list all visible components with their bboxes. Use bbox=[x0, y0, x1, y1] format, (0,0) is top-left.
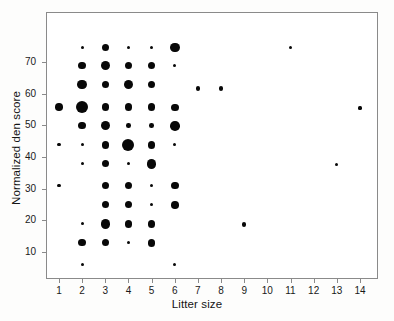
data-point bbox=[81, 263, 84, 266]
data-point bbox=[171, 182, 179, 190]
x-tick-mark bbox=[82, 279, 83, 283]
data-point bbox=[78, 239, 86, 247]
y-tick-mark bbox=[42, 220, 46, 221]
data-point bbox=[170, 121, 180, 131]
y-tick-mark bbox=[42, 157, 46, 158]
data-point bbox=[148, 103, 156, 111]
data-point bbox=[148, 141, 156, 149]
x-tick-mark bbox=[198, 279, 199, 283]
x-tick-mark bbox=[291, 279, 292, 283]
x-tick-mark bbox=[267, 279, 268, 283]
data-point bbox=[170, 43, 180, 53]
x-tick-label: 4 bbox=[118, 285, 138, 296]
data-point bbox=[81, 162, 84, 165]
y-tick-mark bbox=[42, 125, 46, 126]
x-tick-mark bbox=[360, 279, 361, 283]
data-point bbox=[125, 103, 133, 111]
x-tick-label: 5 bbox=[142, 285, 162, 296]
data-point bbox=[81, 222, 84, 225]
data-point bbox=[149, 123, 154, 128]
x-tick-label: 7 bbox=[188, 285, 208, 296]
x-tick-label: 13 bbox=[327, 285, 347, 296]
data-point bbox=[196, 86, 201, 91]
x-tick-label: 10 bbox=[257, 285, 277, 296]
bubble-chart-figure: 1234567891011121314 10203040506070 Litte… bbox=[0, 0, 394, 321]
x-tick-label: 8 bbox=[211, 285, 231, 296]
x-tick-mark bbox=[244, 279, 245, 283]
y-tick-mark bbox=[42, 94, 46, 95]
x-tick-label: 14 bbox=[350, 285, 370, 296]
data-point bbox=[81, 46, 84, 49]
y-tick-mark bbox=[42, 62, 46, 63]
y-tick-mark bbox=[42, 252, 46, 253]
x-tick-label: 11 bbox=[281, 285, 301, 296]
x-tick-label: 3 bbox=[95, 285, 115, 296]
x-tick-mark bbox=[128, 279, 129, 283]
x-tick-mark bbox=[175, 279, 176, 283]
data-point bbox=[102, 141, 110, 149]
x-tick-label: 1 bbox=[49, 285, 69, 296]
data-point bbox=[358, 106, 361, 109]
x-tick-label: 9 bbox=[234, 285, 254, 296]
data-point bbox=[76, 101, 88, 113]
x-tick-mark bbox=[221, 279, 222, 283]
y-axis-title: Normalized den score bbox=[10, 68, 22, 228]
data-point bbox=[55, 103, 63, 111]
data-point bbox=[102, 103, 110, 111]
x-tick-mark bbox=[105, 279, 106, 283]
x-tick-mark bbox=[152, 279, 153, 283]
data-point bbox=[171, 201, 179, 209]
y-tick-label: 70 bbox=[14, 56, 36, 67]
y-axis-title-container: Normalized den score bbox=[10, 68, 26, 228]
data-point bbox=[171, 104, 179, 112]
data-point bbox=[148, 239, 156, 247]
x-tick-mark bbox=[337, 279, 338, 283]
data-point bbox=[126, 123, 131, 128]
data-point bbox=[57, 184, 60, 187]
y-tick-label: 10 bbox=[14, 246, 36, 257]
data-point bbox=[125, 220, 133, 228]
x-tick-mark bbox=[314, 279, 315, 283]
y-tick-mark bbox=[42, 189, 46, 190]
x-axis-title: Litter size bbox=[0, 298, 394, 310]
plot-area-frame bbox=[46, 12, 378, 279]
x-tick-label: 12 bbox=[304, 285, 324, 296]
x-tick-label: 2 bbox=[72, 285, 92, 296]
data-point bbox=[219, 86, 224, 91]
data-point bbox=[101, 219, 111, 229]
x-tick-label: 6 bbox=[165, 285, 185, 296]
x-tick-mark bbox=[59, 279, 60, 283]
